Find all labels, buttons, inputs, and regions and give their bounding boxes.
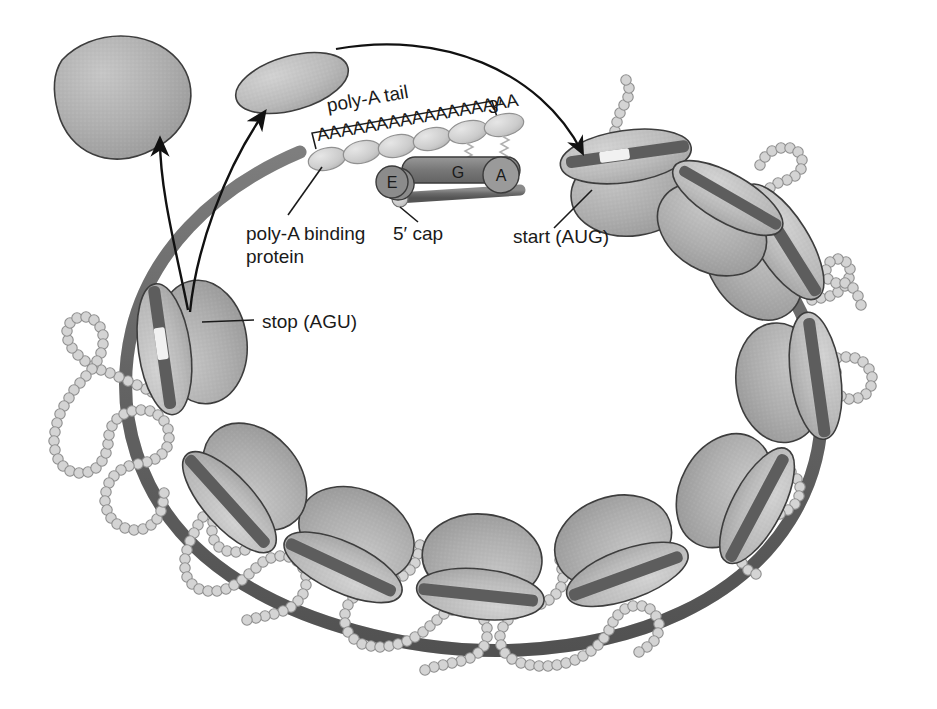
site-label-A: A (496, 167, 507, 184)
pabp (341, 137, 383, 167)
site-label-G: G (452, 164, 464, 181)
site-label-E: E (387, 174, 398, 191)
poly-a-binding-protein-label-line2: protein (246, 246, 304, 267)
pabp (306, 144, 348, 174)
three-prime-label: 3′ (488, 96, 503, 117)
leader-cap (400, 207, 418, 222)
pabp (446, 117, 490, 147)
pabp (411, 124, 453, 154)
pabp (376, 131, 418, 161)
text-labels: poly-A tail AAAAAAAAAAAAAAAAA 3′ poly-A … (246, 81, 609, 332)
five-prime-cap-label: 5′ cap (393, 223, 443, 244)
poly-a-binding-protein-label: poly-A binding (246, 223, 365, 244)
ribosome (727, 309, 849, 450)
translation-diagram: E G A poly-A tail AAAAAAAAAAAAAAAAA 3′ p… (0, 0, 937, 709)
ribosome (414, 508, 552, 626)
leader-pabp (288, 167, 322, 215)
free-large-subunit (55, 36, 191, 159)
ribosome (540, 477, 696, 619)
figure-canvas: E G A poly-A tail AAAAAAAAAAAAAAAAA 3′ p… (0, 0, 937, 709)
stop-codon-label: stop (AGU) (262, 311, 357, 332)
start-codon-label: start (AUG) (513, 226, 609, 247)
